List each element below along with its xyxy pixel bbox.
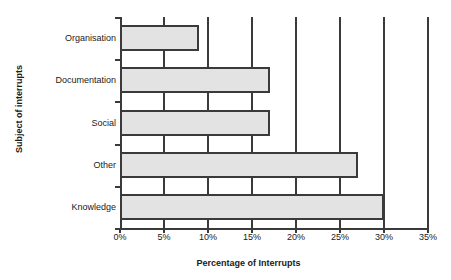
bar-social — [120, 110, 270, 136]
bar-documentation — [120, 67, 270, 93]
x-axis-tick-labels: 0%5%10%15%20%25%30%35% — [120, 232, 428, 246]
y-tick-label-knowledge: Knowledge — [20, 202, 116, 212]
x-axis-title-text: Percentage of Interrupts — [150, 258, 300, 268]
gridline-35 — [427, 17, 429, 228]
x-tick-label-15: 15% — [243, 232, 261, 242]
y-tick-1 — [115, 59, 120, 61]
y-tick-0 — [115, 17, 120, 19]
x-axis-title: Percentage of Interrupts — [0, 258, 451, 268]
bar-knowledge — [120, 194, 384, 220]
bar-organisation — [120, 25, 199, 51]
y-tick-3 — [115, 144, 120, 146]
y-tick-4 — [115, 186, 120, 188]
x-tick-label-35: 35% — [419, 232, 437, 242]
y-tick-label-organisation: Organisation — [20, 33, 116, 43]
x-axis-line — [120, 228, 428, 230]
x-tick-label-30: 30% — [375, 232, 393, 242]
bar-other — [120, 152, 358, 178]
y-tick-label-other: Other — [20, 160, 116, 170]
y-tick-2 — [115, 101, 120, 103]
x-tick-label-0: 0% — [113, 232, 126, 242]
x-tick-label-5: 5% — [157, 232, 170, 242]
y-tick-label-social: Social — [20, 118, 116, 128]
x-tick-label-20: 20% — [287, 232, 305, 242]
y-axis-tick-labels: OrganisationDocumentationSocialOtherKnow… — [20, 17, 116, 228]
bar-chart: Subject of interrupts OrganisationDocume… — [0, 0, 451, 280]
plot-area — [120, 17, 428, 228]
x-tick-label-10: 10% — [199, 232, 217, 242]
y-tick-5 — [115, 228, 120, 230]
x-tick-label-25: 25% — [331, 232, 349, 242]
y-tick-label-documentation: Documentation — [20, 75, 116, 85]
